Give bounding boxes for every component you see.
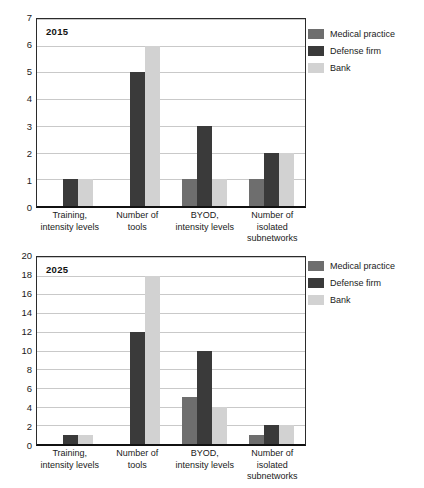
gridlines-2025 xyxy=(37,257,305,444)
gridline xyxy=(37,179,305,180)
year-label-2015: 2015 xyxy=(46,26,68,37)
x-axis-label: Number ofisolatedsubnetworks xyxy=(239,210,307,245)
gridlines-2015 xyxy=(37,19,305,206)
bar-group xyxy=(238,257,305,444)
y-tick-label: 2 xyxy=(27,422,32,432)
y-tick-label: 8 xyxy=(27,365,32,375)
y-tick-label: 18 xyxy=(21,270,32,280)
chart-panel-2025: 02468101214161820 2025 Training,intensit… xyxy=(0,244,424,488)
legend-swatch-icon-defense-firm xyxy=(308,278,324,288)
bar xyxy=(197,126,212,206)
bar xyxy=(249,435,264,444)
y-tick-label: 1 xyxy=(27,176,32,186)
gridline xyxy=(37,46,305,47)
gridline xyxy=(37,19,305,20)
x-axis-label: Number ofisolatedsubnetworks xyxy=(239,448,307,483)
y-tick-label: 4 xyxy=(27,403,32,413)
bar-groups-2015 xyxy=(37,19,305,206)
x-axis-labels-2015: Training,intensity levelsNumber oftoolsB… xyxy=(36,210,306,245)
bar-group xyxy=(104,19,171,206)
gridline xyxy=(37,276,305,277)
x-axis-label: BYOD,intensity levels xyxy=(171,448,239,483)
y-tick-label: 6 xyxy=(27,40,32,50)
y-tick-label: 12 xyxy=(21,327,32,337)
gridline xyxy=(37,153,305,154)
bar xyxy=(264,153,279,206)
x-axis-label: BYOD,intensity levels xyxy=(171,210,239,245)
gridline xyxy=(37,332,305,333)
plot-wrap-2025: 2025 xyxy=(36,256,306,446)
legend-label-medical-practice: Medical practice xyxy=(330,30,395,39)
y-tick-label: 0 xyxy=(27,203,32,213)
legend-item-bank: Bank xyxy=(308,294,420,306)
plot-area-2015 xyxy=(36,18,306,208)
gridline xyxy=(37,351,305,352)
y-tick-label: 3 xyxy=(27,122,32,132)
bar xyxy=(145,276,160,444)
bar xyxy=(197,351,212,445)
bar xyxy=(130,72,145,206)
gridline xyxy=(37,407,305,408)
y-tick-label: 14 xyxy=(21,308,32,318)
bar xyxy=(78,179,93,206)
bar-group xyxy=(104,257,171,444)
bar-group xyxy=(171,257,238,444)
bar xyxy=(130,332,145,444)
y-tick-label: 6 xyxy=(27,384,32,394)
legend-swatch-icon-medical-practice xyxy=(308,29,324,39)
legend-label-defense-firm: Defense firm xyxy=(330,47,381,56)
bar xyxy=(279,153,294,206)
bar-group xyxy=(171,19,238,206)
gridline xyxy=(37,257,305,258)
chart-panel-2015: 01234567 2015 Training,intensity levelsN… xyxy=(0,0,424,244)
legend-item-medical-practice: Medical practice xyxy=(308,28,420,40)
y-tick-label: 20 xyxy=(21,251,32,261)
bar xyxy=(212,179,227,206)
gridline xyxy=(37,369,305,370)
legend-item-defense-firm: Defense firm xyxy=(308,45,420,57)
gridline xyxy=(37,388,305,389)
y-tick-label: 5 xyxy=(27,68,32,78)
bar xyxy=(264,425,279,444)
legend-label-defense-firm: Defense firm xyxy=(330,279,381,288)
gridline xyxy=(37,99,305,100)
bar-group xyxy=(37,257,104,444)
bar-groups-2025 xyxy=(37,257,305,444)
y-tick-label: 2 xyxy=(27,149,32,159)
legend-item-bank: Bank xyxy=(308,62,420,74)
legend-item-defense-firm: Defense firm xyxy=(308,277,420,289)
year-label-2025: 2025 xyxy=(46,264,68,275)
legend-2025: Medical practice Defense firm Bank xyxy=(308,260,420,311)
y-tick-label: 0 xyxy=(27,441,32,451)
bar xyxy=(212,407,227,444)
bar xyxy=(182,179,197,206)
legend-label-medical-practice: Medical practice xyxy=(330,262,395,271)
gridline xyxy=(37,294,305,295)
bar xyxy=(145,46,160,206)
y-tick-label: 4 xyxy=(27,95,32,105)
x-axis-label: Number oftools xyxy=(104,448,172,483)
plot-wrap-2015: 2015 xyxy=(36,18,306,208)
y-tick-label: 16 xyxy=(21,289,32,299)
bar xyxy=(182,397,197,444)
gridline xyxy=(37,313,305,314)
gridline xyxy=(37,126,305,127)
legend-label-bank: Bank xyxy=(330,296,351,305)
bar xyxy=(78,435,93,444)
bar xyxy=(63,179,78,206)
x-axis-label: Number oftools xyxy=(104,210,172,245)
y-axis-2025: 02468101214161820 xyxy=(14,256,32,446)
x-axis-labels-2025: Training,intensity levelsNumber oftoolsB… xyxy=(36,448,306,483)
x-axis-label: Training,intensity levels xyxy=(36,448,104,483)
legend-swatch-icon-bank xyxy=(308,63,324,73)
bar-group xyxy=(37,19,104,206)
bar xyxy=(279,425,294,444)
plot-area-2025 xyxy=(36,256,306,446)
legend-2015: Medical practice Defense firm Bank xyxy=(308,28,420,79)
legend-label-bank: Bank xyxy=(330,64,351,73)
x-axis-label: Training,intensity levels xyxy=(36,210,104,245)
bar-group xyxy=(238,19,305,206)
legend-swatch-icon-medical-practice xyxy=(308,261,324,271)
gridline xyxy=(37,425,305,426)
y-axis-2015: 01234567 xyxy=(14,18,32,208)
